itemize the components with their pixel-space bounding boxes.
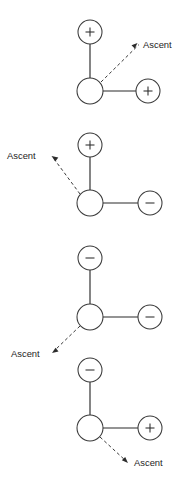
- right-node: [138, 416, 162, 440]
- ascent-arrow-head: [132, 43, 138, 49]
- molecule-ascent-diagram: Ascent Ascent: [0, 0, 181, 490]
- center-node: [77, 78, 103, 104]
- right-node: [136, 79, 160, 103]
- ascent-arrow-head: [52, 348, 59, 353]
- right-node: [138, 305, 162, 329]
- top-node: [78, 20, 102, 44]
- ascent-arrow: [101, 43, 139, 82]
- top-node: [78, 133, 102, 157]
- top-node: [78, 358, 102, 382]
- panel-1: Ascent: [77, 20, 172, 104]
- right-node: [138, 191, 162, 215]
- ascent-arrow: [100, 437, 128, 463]
- ascent-arrow-head: [52, 156, 59, 162]
- ascent-label: Ascent: [134, 457, 163, 468]
- ascent-label: Ascent: [143, 39, 172, 50]
- center-node: [77, 415, 103, 441]
- center-node: [77, 190, 103, 216]
- ascent-arrow-shaft: [54, 326, 80, 351]
- figure-container: Ascent Ascent: [0, 0, 181, 490]
- ascent-arrow-shaft: [100, 437, 126, 461]
- panel-3: Ascent: [11, 246, 162, 359]
- panel-2: Ascent: [7, 133, 162, 216]
- ascent-label: Ascent: [11, 348, 40, 359]
- center-node: [77, 304, 103, 330]
- ascent-label: Ascent: [7, 150, 36, 161]
- ascent-arrow-shaft: [101, 45, 139, 83]
- top-node: [78, 246, 102, 270]
- ascent-arrow-shaft: [53, 158, 80, 195]
- ascent-arrow: [52, 326, 80, 353]
- panel-4: Ascent: [77, 358, 163, 468]
- ascent-arrow: [52, 156, 81, 194]
